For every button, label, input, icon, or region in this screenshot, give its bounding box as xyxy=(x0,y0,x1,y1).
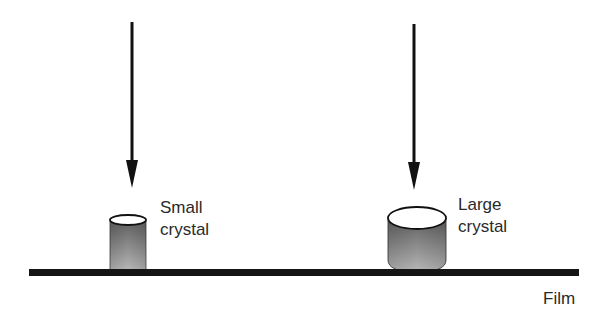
incident-ray-arrow-right xyxy=(408,24,420,190)
large-crystal-label-line2: crystal xyxy=(458,216,507,238)
film-strip xyxy=(29,269,579,276)
large-crystal-label: Large crystal xyxy=(458,194,507,238)
incident-ray-arrow-left xyxy=(126,22,138,188)
small-crystal-label: Small crystal xyxy=(160,197,209,241)
film-label: Film xyxy=(543,288,575,310)
small-crystal-cylinder xyxy=(110,215,146,271)
small-crystal-label-line2: crystal xyxy=(160,219,209,241)
large-crystal-cylinder xyxy=(388,207,446,272)
crystal-film-diagram xyxy=(0,0,607,316)
small-crystal-label-line1: Small xyxy=(160,197,209,219)
large-crystal-label-line1: Large xyxy=(458,194,507,216)
